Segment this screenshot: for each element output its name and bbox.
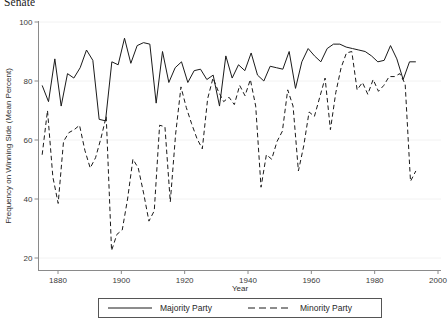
- y-tick-label-80: 80: [24, 77, 33, 86]
- x-axis-title: Year: [232, 284, 249, 293]
- x-axis-ticks: 1880190019201940196019802000: [49, 270, 447, 285]
- x-tick-label-1880: 1880: [49, 276, 67, 285]
- y-tick-label-60: 60: [24, 136, 33, 145]
- chart-title: Senate: [4, 0, 35, 9]
- y-axis-title: Frequency on Winning Side (Mean Percent): [4, 68, 13, 224]
- legend-label-minority-party: Minority Party: [300, 303, 353, 313]
- data-series-group: [42, 38, 416, 250]
- x-tick-label-1980: 1980: [366, 276, 384, 285]
- chart-legend: Majority Party Minority Party: [99, 299, 382, 318]
- legend-label-majority-party: Majority Party: [160, 303, 213, 313]
- y-tick-label-40: 40: [24, 195, 33, 204]
- x-tick-label-1900: 1900: [112, 276, 130, 285]
- y-tick-label-20: 20: [24, 254, 33, 263]
- x-tick-label-1960: 1960: [302, 276, 320, 285]
- series-line-majority-party: [42, 38, 416, 121]
- chart-plot-area: 20406080100 1880190019201940196019802000…: [0, 0, 448, 320]
- x-tick-label-1920: 1920: [176, 276, 194, 285]
- gridlines: [39, 22, 442, 258]
- chart-figure: Senate 20406080100 188019001920194019601…: [0, 0, 448, 320]
- y-axis-ticks: 20406080100: [19, 18, 38, 263]
- y-tick-label-100: 100: [19, 18, 33, 27]
- x-tick-label-2000: 2000: [429, 276, 447, 285]
- axis-lines: [38, 21, 441, 271]
